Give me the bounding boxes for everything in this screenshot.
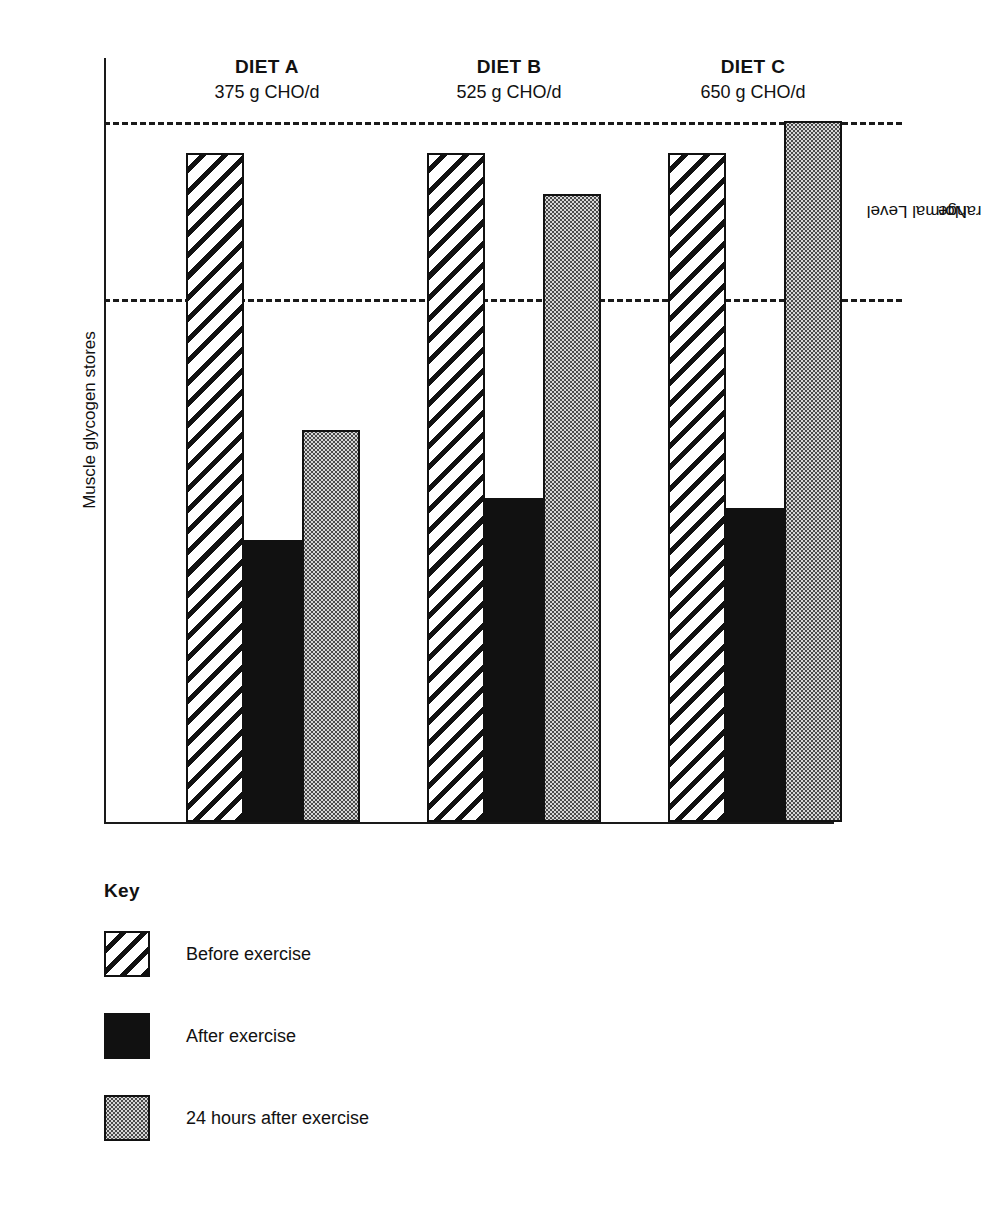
- bar-after-exercise-diet-b: [485, 498, 543, 822]
- chart-figure: Muscle glycogen stores DIET A 375 g CHO/…: [0, 0, 952, 860]
- legend-item-label: After exercise: [186, 1026, 296, 1047]
- legend-swatch-solid-icon: [104, 1013, 150, 1059]
- legend: Key Before exercise After exercise 24 ho…: [104, 880, 704, 1174]
- bar-24h-after-exercise-diet-b: [543, 194, 601, 822]
- legend-item-before-exercise: Before exercise: [104, 928, 704, 980]
- normal-range-annotation: Normal Levelrange: [858, 130, 985, 292]
- legend-item-label: 24 hours after exercise: [186, 1108, 369, 1129]
- bar-after-exercise-diet-a: [244, 540, 302, 822]
- normal-range-annotation-text: Normal Levelrange: [906, 161, 970, 261]
- bar-24h-after-exercise-diet-c: [784, 121, 842, 822]
- bar-before-exercise-diet-b: [427, 153, 485, 822]
- bar-before-exercise-diet-a: [186, 153, 244, 822]
- bar-24h-after-exercise-diet-a: [302, 430, 360, 822]
- legend-swatch-dotted-icon: [104, 1095, 150, 1141]
- legend-title: Key: [104, 880, 704, 902]
- legend-item-label: Before exercise: [186, 944, 311, 965]
- legend-item-after-exercise: After exercise: [104, 1010, 704, 1062]
- bar-after-exercise-diet-c: [726, 508, 784, 822]
- bar-before-exercise-diet-c: [668, 153, 726, 822]
- legend-swatch-hatch-icon: [104, 931, 150, 977]
- bars-layer: [0, 0, 952, 824]
- legend-item-24h-after-exercise: 24 hours after exercise: [104, 1092, 704, 1144]
